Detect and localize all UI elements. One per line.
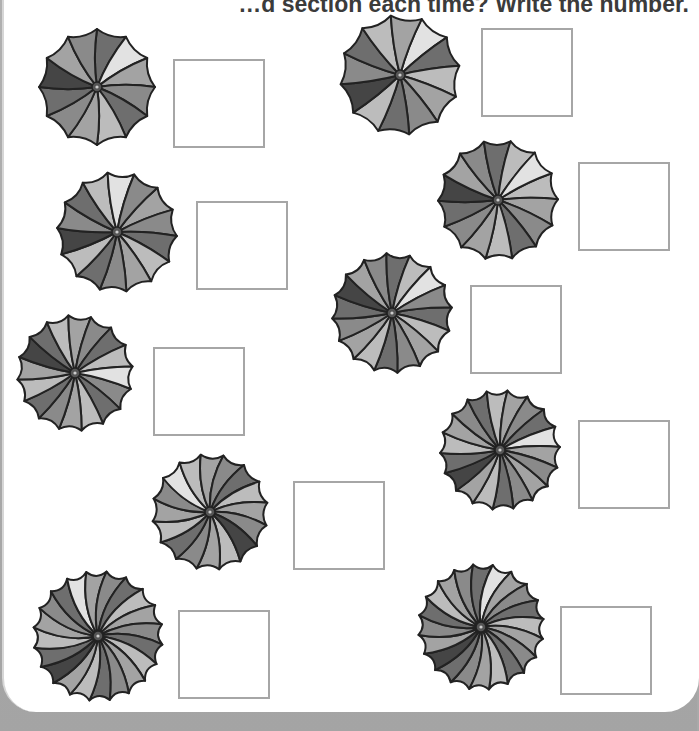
umbrella-icon: [326, 247, 458, 379]
umbrella-5: [326, 247, 458, 379]
answer-box-8[interactable]: [293, 481, 385, 570]
umbrella-8: [146, 448, 274, 576]
answer-box-9[interactable]: [178, 610, 270, 699]
umbrella-icon: [11, 309, 139, 437]
umbrella-2: [334, 9, 466, 141]
answer-box-5[interactable]: [470, 285, 562, 374]
answer-box-4[interactable]: [578, 162, 670, 251]
umbrella-9: [27, 565, 169, 707]
umbrella-icon: [33, 23, 161, 151]
answer-box-3[interactable]: [196, 201, 288, 290]
umbrella-3: [51, 166, 183, 298]
answer-box-10[interactable]: [560, 606, 652, 695]
umbrella-icon: [146, 448, 274, 576]
umbrella-icon: [434, 384, 566, 516]
umbrella-10: [412, 558, 550, 696]
answer-box-7[interactable]: [578, 420, 670, 509]
umbrella-icon: [412, 558, 550, 696]
umbrella-icon: [51, 166, 183, 298]
answer-box-1[interactable]: [173, 59, 265, 148]
umbrella-6: [11, 309, 139, 437]
umbrella-7: [434, 384, 566, 516]
umbrella-icon: [334, 9, 466, 141]
answer-box-6[interactable]: [153, 347, 245, 436]
umbrella-1: [33, 23, 161, 151]
umbrella-icon: [27, 565, 169, 707]
answer-box-2[interactable]: [481, 28, 573, 117]
